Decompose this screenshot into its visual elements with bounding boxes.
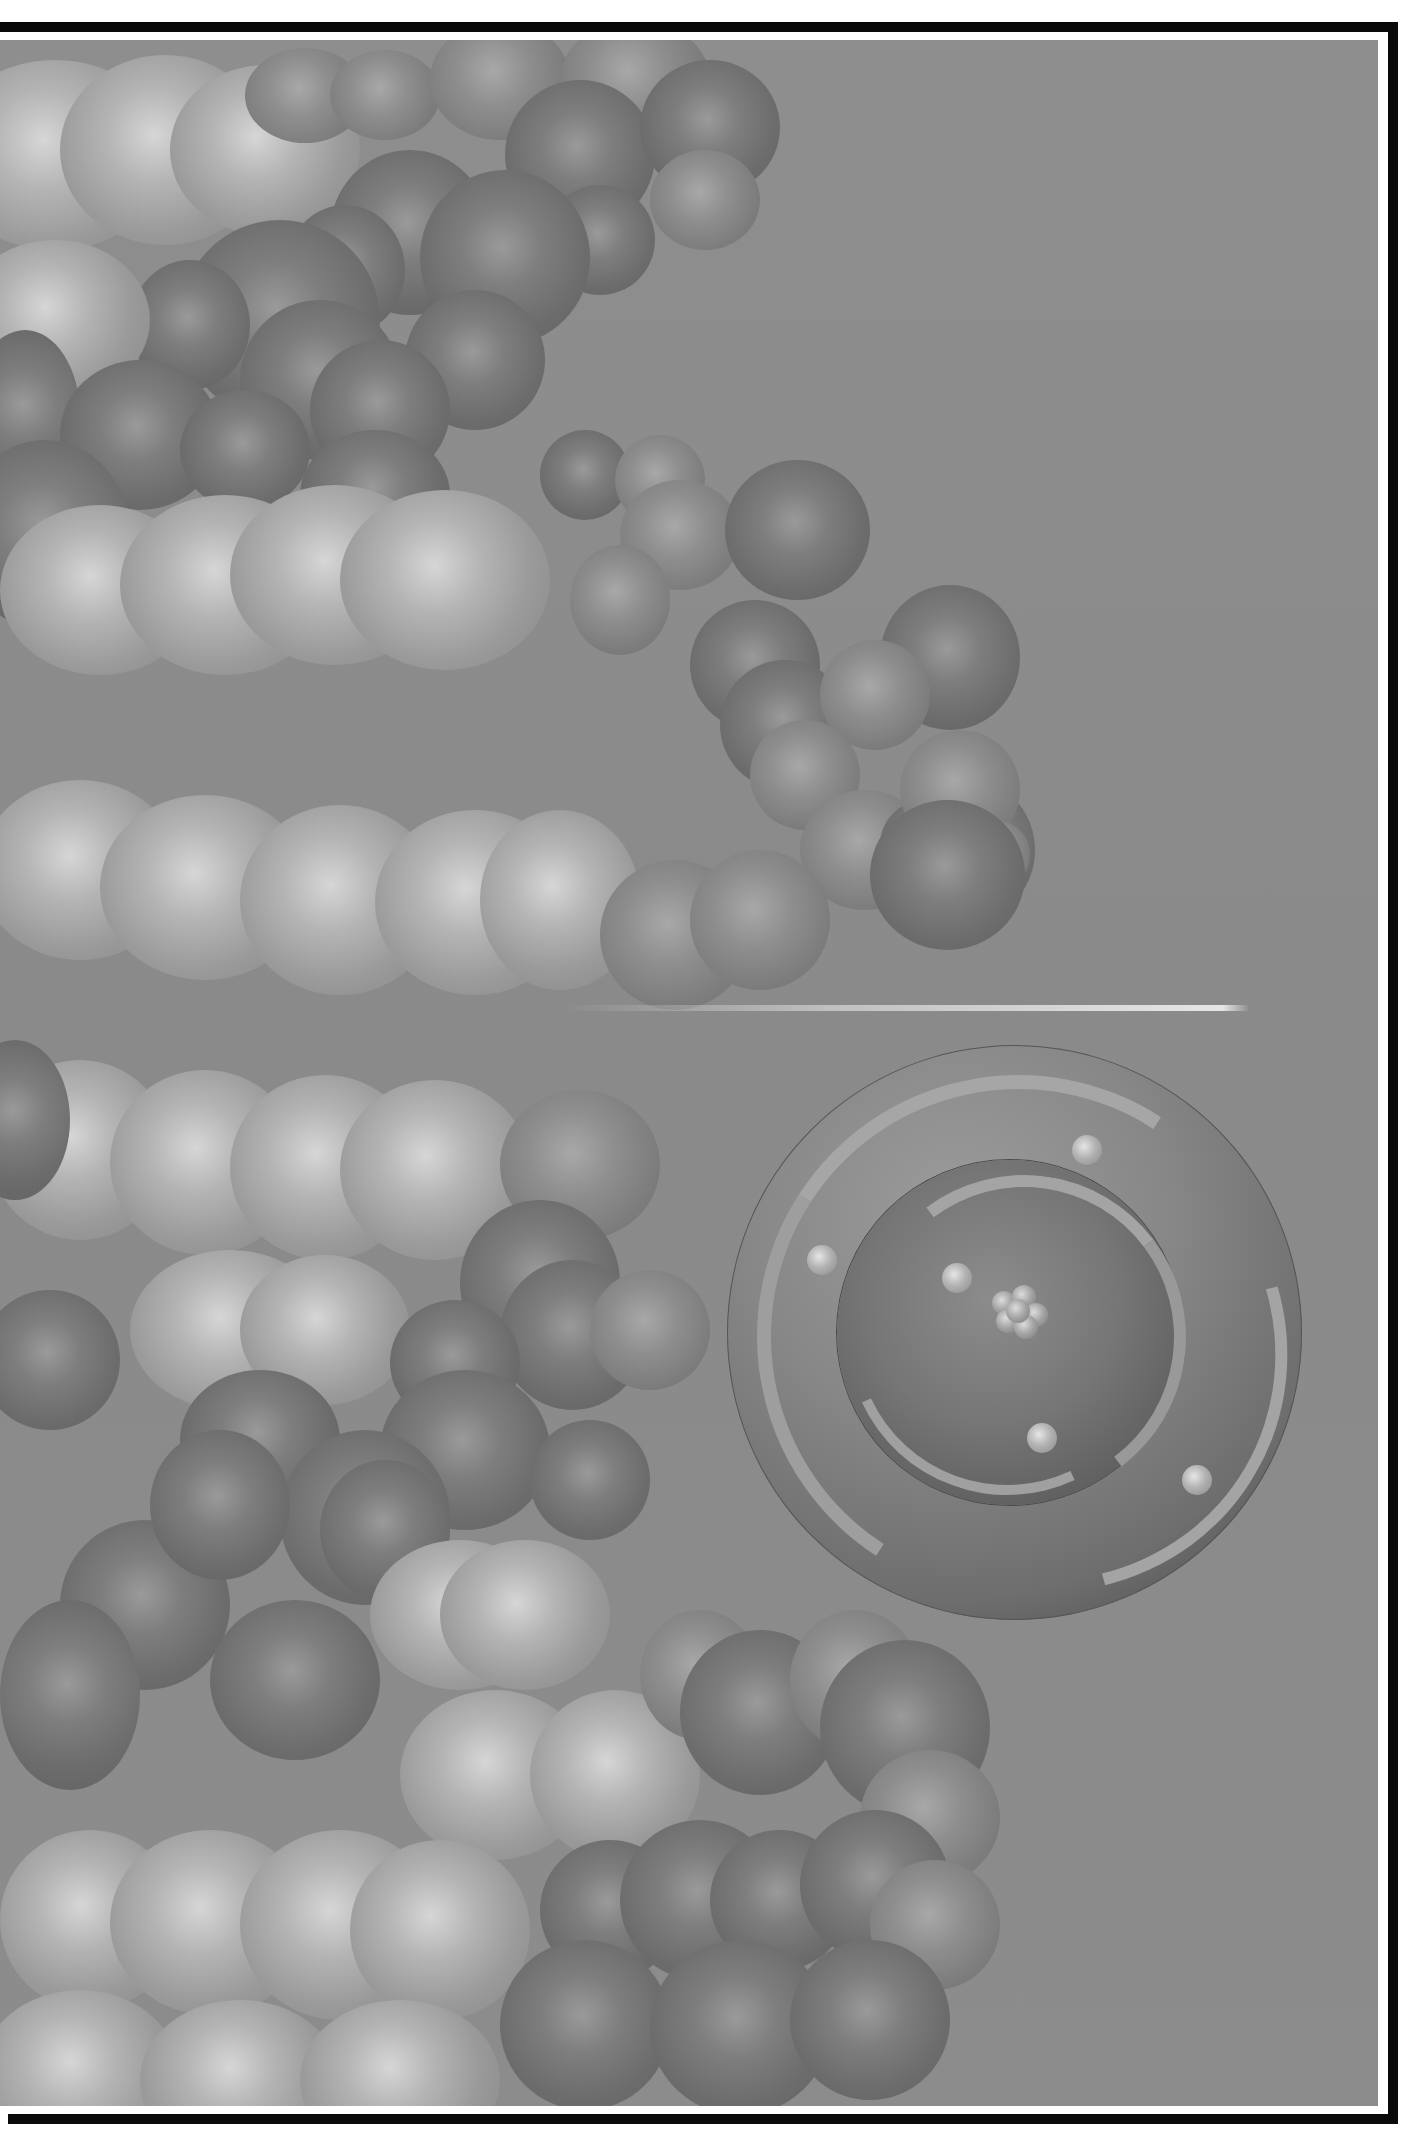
backbone-sphere	[570, 545, 670, 655]
electron	[807, 1245, 837, 1275]
nucleus	[992, 1285, 1047, 1340]
backbone-sphere	[530, 1420, 650, 1540]
frame-border-bottom	[8, 2114, 1398, 2124]
backbone-sphere	[650, 150, 760, 250]
backbone-sphere	[150, 1430, 290, 1580]
backbone-sphere	[870, 800, 1025, 950]
frame-border-right	[1388, 22, 1398, 2124]
atom-model	[727, 1045, 1302, 1620]
backbone-sphere	[0, 1290, 120, 1430]
base-pair-sphere	[350, 1840, 530, 2020]
electron	[1182, 1465, 1212, 1495]
illustration-area	[0, 40, 1378, 2106]
backbone-sphere	[725, 460, 870, 600]
backbone-sphere	[180, 390, 310, 510]
nucleon	[1006, 1299, 1030, 1323]
backbone-sphere	[210, 1600, 380, 1760]
backbone-sphere	[590, 1270, 710, 1390]
backbone-sphere	[500, 1940, 670, 2106]
electron	[942, 1263, 972, 1293]
electron	[1072, 1135, 1102, 1165]
light-streak	[560, 1005, 1250, 1011]
backbone-sphere	[790, 1940, 950, 2100]
base-pair-sphere	[440, 1540, 610, 1690]
frame-border-top	[0, 22, 1398, 32]
electron	[1027, 1423, 1057, 1453]
backbone-sphere	[330, 50, 440, 140]
backbone-sphere	[690, 850, 830, 990]
backbone-sphere	[0, 1600, 140, 1790]
base-pair-sphere	[340, 490, 550, 670]
